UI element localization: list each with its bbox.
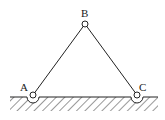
pin-b (82, 21, 88, 27)
pin-a (30, 92, 36, 98)
truss-diagram: A B C (0, 0, 165, 120)
label-c: C (139, 81, 146, 93)
label-b: B (81, 7, 88, 19)
member-ab (33, 24, 85, 95)
label-a: A (20, 81, 28, 93)
member-bc (85, 24, 137, 95)
